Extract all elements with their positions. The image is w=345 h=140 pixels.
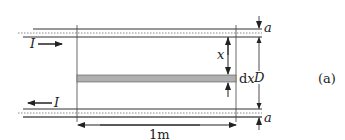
x-label: x (217, 48, 224, 61)
strip-dx (77, 75, 236, 82)
top-conductor (18, 29, 262, 37)
a-label-bottom: a (264, 111, 272, 124)
current-label-bottom: I (54, 96, 59, 109)
a-label-top: a (264, 21, 272, 34)
d-label: D (254, 71, 264, 84)
length-label: 1m (149, 128, 170, 140)
diagram-canvas (0, 0, 345, 140)
dx-label: dx (239, 72, 255, 85)
bottom-conductor (18, 109, 262, 117)
current-label-top: I (30, 37, 35, 50)
panel-label: (a) (318, 72, 336, 85)
two-wire-diagram: I I x dx D a a 1m (a) (0, 0, 345, 140)
